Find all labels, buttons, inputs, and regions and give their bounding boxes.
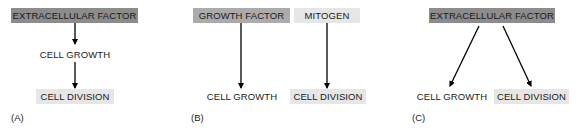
panel-a-cell-division-box: CELL DIVISION: [36, 89, 114, 104]
arrow-c-factor-to-growth: [450, 26, 479, 86]
panel-c-cell-growth-label: CELL GROWTH: [415, 89, 489, 104]
panel-a-cell-growth-label: CELL GROWTH: [36, 47, 114, 62]
panel-b-label: (B): [191, 112, 204, 123]
arrow-c-factor-to-division: [503, 26, 531, 86]
panel-b-cell-division-box: CELL DIVISION: [290, 89, 366, 104]
panel-b-growth-factor-box: GROWTH FACTOR: [193, 8, 290, 23]
panel-c-cell-division-box: CELL DIVISION: [494, 89, 569, 104]
panel-c-label: (C): [412, 112, 425, 123]
panel-a-extracellular-factor-box: EXTRACELLULAR FACTOR: [11, 8, 138, 23]
panel-c-extracellular-factor-box: EXTRACELLULAR FACTOR: [429, 8, 555, 23]
panel-a-label: (A): [11, 112, 24, 123]
panel-b-mitogen-box: MITOGEN: [294, 8, 360, 23]
panel-b-cell-growth-label: CELL GROWTH: [205, 89, 279, 104]
